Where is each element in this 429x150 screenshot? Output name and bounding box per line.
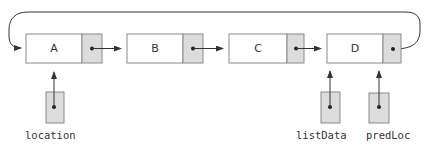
label-predloc: predLoc [366,129,410,141]
node-info-a: A [50,42,58,55]
pointer-listdata [321,71,340,123]
node-info-d: D [351,42,359,55]
label-listdata: listData [296,129,347,141]
label-location: location [25,129,76,141]
linked-list-diagram: A B C D location listData [0,0,429,150]
node-info-b: B [151,42,159,55]
pointer-predloc [369,71,389,123]
list-node-a: A [26,34,102,63]
next-pointer-dot [391,47,395,51]
list-node-b: B [127,34,203,63]
pointer-location [46,72,64,123]
list-node-c: C [229,34,304,63]
list-node-d: D [327,34,401,63]
node-info-c: C [254,42,262,55]
